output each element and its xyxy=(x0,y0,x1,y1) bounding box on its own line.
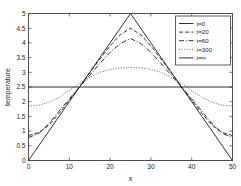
y-tick-label: 5 xyxy=(22,10,26,17)
x-tick-label: 30 xyxy=(147,163,155,170)
x-tick-label: 0 xyxy=(27,163,31,170)
chart-legend: t=0t=20t=60t=300t=∞ xyxy=(176,16,231,65)
x-tick-label: 20 xyxy=(106,163,114,170)
y-tick-label: 4.5 xyxy=(16,25,25,32)
y-tick-label: 1.5 xyxy=(16,113,25,120)
legend-label: t=20 xyxy=(197,28,210,35)
legend-label: t=300 xyxy=(197,46,213,53)
y-tick-label: 0.5 xyxy=(16,142,25,149)
x-axis-label: x xyxy=(129,175,133,182)
y-tick-label: 1 xyxy=(22,127,26,134)
x-tick-label: 40 xyxy=(188,163,196,170)
x-tick-label: 50 xyxy=(229,163,237,170)
legend-label: t=0 xyxy=(197,20,206,27)
y-tick-label: 2 xyxy=(22,98,26,105)
figure-container: 01020304050 00.511.522.533.544.55 t=0t=2… xyxy=(0,0,241,186)
y-tick-label: 3 xyxy=(22,69,26,76)
y-tick-label: 3.5 xyxy=(16,54,25,61)
y-tick-label: 0 xyxy=(22,157,26,164)
y-tick-label: 2.5 xyxy=(16,83,25,90)
legend-label: t=∞ xyxy=(197,54,207,61)
y-axis-label: temperature xyxy=(4,68,12,106)
temperature-line-chart: 01020304050 00.511.522.533.544.55 t=0t=2… xyxy=(0,0,241,186)
x-tick-label: 10 xyxy=(66,163,74,170)
y-tick-label: 4 xyxy=(22,39,26,46)
legend-label: t=60 xyxy=(197,37,210,44)
